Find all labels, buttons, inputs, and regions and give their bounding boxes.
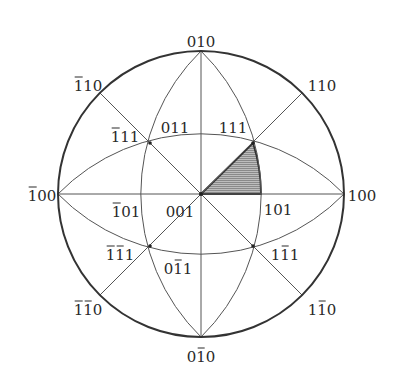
index-digit: 1 xyxy=(280,248,290,263)
pole-dot-m111 xyxy=(148,141,152,145)
index-digit: 1 xyxy=(74,303,84,318)
index-digit: 1 xyxy=(219,121,229,136)
index-digit: 0 xyxy=(206,350,216,365)
index-digit: 1 xyxy=(238,121,248,136)
index-digit: 0 xyxy=(161,121,171,136)
index-digit: 1 xyxy=(348,189,358,204)
index-digit: 1 xyxy=(196,350,206,365)
index-digit: 0 xyxy=(187,35,197,50)
pole-label-p110: 110 xyxy=(308,79,337,94)
index-digit: 1 xyxy=(317,303,327,318)
pole-label-pm110: 110 xyxy=(74,79,103,94)
index-digit: 1 xyxy=(283,203,293,218)
index-digit: 0 xyxy=(206,35,216,50)
index-digit: 0 xyxy=(37,189,47,204)
index-digit: 0 xyxy=(327,79,337,94)
pole-label-p001: 001 xyxy=(166,205,195,220)
index-digit: 1 xyxy=(111,130,121,145)
pole-dot-1m11 xyxy=(251,244,255,248)
index-digit: 1 xyxy=(196,35,206,50)
index-digit: 1 xyxy=(308,303,318,318)
index-digit: 1 xyxy=(228,121,238,136)
pole-label-pm100: 100 xyxy=(28,189,57,204)
index-digit: 1 xyxy=(120,130,130,145)
index-digit: 1 xyxy=(264,203,274,218)
index-digit: 0 xyxy=(327,303,337,318)
pole-label-p0m11: 011 xyxy=(164,262,193,277)
index-digit: 1 xyxy=(125,248,135,263)
index-digit: 1 xyxy=(185,205,195,220)
index-digit: 0 xyxy=(121,205,131,220)
pole-label-pm1m11: 111 xyxy=(106,248,135,263)
index-digit: 1 xyxy=(106,248,116,263)
index-digit: 1 xyxy=(308,79,318,94)
index-digit: 1 xyxy=(28,189,38,204)
pole-label-p1m10: 110 xyxy=(308,303,337,318)
pole-label-p101: 101 xyxy=(264,203,293,218)
index-digit: 1 xyxy=(83,79,93,94)
index-digit: 1 xyxy=(170,121,180,136)
index-digit: 1 xyxy=(74,79,84,94)
pole-label-p0m10: 010 xyxy=(187,350,216,365)
pole-label-p1m11: 111 xyxy=(271,248,300,263)
index-digit: 0 xyxy=(164,262,174,277)
pole-label-pm101: 101 xyxy=(112,205,141,220)
pole-label-p010: 010 xyxy=(187,35,216,50)
pole-label-pm111: 111 xyxy=(111,130,140,145)
index-digit: 1 xyxy=(115,248,125,263)
index-digit: 1 xyxy=(131,205,141,220)
index-digit: 0 xyxy=(93,303,103,318)
pole-label-pm1m10: 110 xyxy=(74,303,103,318)
index-digit: 1 xyxy=(83,303,93,318)
index-digit: 0 xyxy=(357,189,367,204)
index-digit: 1 xyxy=(130,130,140,145)
index-digit: 1 xyxy=(180,121,190,136)
pole-dot-111 xyxy=(251,141,255,145)
index-digit: 1 xyxy=(290,248,300,263)
index-digit: 1 xyxy=(183,262,193,277)
index-digit: 0 xyxy=(187,350,197,365)
pole-dot-m1m11 xyxy=(148,244,152,248)
pole-label-p100: 100 xyxy=(348,189,377,204)
projection-lines xyxy=(0,0,399,386)
index-digit: 1 xyxy=(271,248,281,263)
index-digit: 0 xyxy=(175,205,185,220)
pole-label-p011: 011 xyxy=(161,121,190,136)
shaded-standard-triangle xyxy=(201,143,261,194)
stereographic-projection: 0100101001001101101101101110111111010011… xyxy=(0,0,399,386)
pole-dot-001 xyxy=(199,192,203,196)
index-digit: 0 xyxy=(47,189,57,204)
index-digit: 0 xyxy=(273,203,283,218)
pole-label-p111: 111 xyxy=(219,121,248,136)
index-digit: 1 xyxy=(317,79,327,94)
index-digit: 0 xyxy=(166,205,176,220)
index-digit: 0 xyxy=(367,189,377,204)
index-digit: 1 xyxy=(173,262,183,277)
index-digit: 0 xyxy=(93,79,103,94)
index-digit: 1 xyxy=(112,205,122,220)
